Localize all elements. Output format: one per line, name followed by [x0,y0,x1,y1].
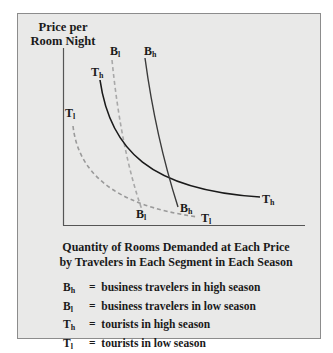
legend-item-tl: Tl= tourists in low season [63,336,260,353]
caption-line-2: by Travelers in Each Segment in Each Sea… [56,255,296,270]
label-bh-end: Bh [180,202,192,218]
label-th-top: Th [91,66,103,82]
curve-bl [112,60,142,210]
label-bh-top: Bh [144,45,156,61]
legend: Bh= business travelers in high season Bl… [63,280,260,353]
x-axis-caption: Quantity of Rooms Demanded at Each Price… [56,240,296,270]
curve-bh [145,58,178,207]
legend-item-bh: Bh= business travelers in high season [63,280,260,299]
label-bl-top: Bl [110,45,120,61]
label-tl-top: Tl [65,107,75,123]
caption-line-1: Quantity of Rooms Demanded at Each Price [56,240,296,255]
y-axis-title: Price per Room Night [28,20,98,48]
legend-item-th: Th= tourists in high season [63,317,260,336]
legend-item-bl: Bl= business travelers in low season [63,299,260,318]
label-th-end: Th [262,193,274,209]
label-bl-end: Bl [136,208,146,224]
label-tl-end: Tl [201,212,211,228]
